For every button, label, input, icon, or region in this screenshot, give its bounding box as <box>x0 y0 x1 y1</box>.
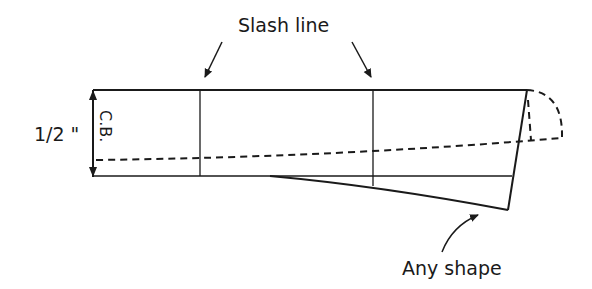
slash-line-label: Slash line <box>238 14 329 36</box>
dimension-arrow <box>89 90 97 177</box>
dashed-fold-line <box>96 90 562 160</box>
pattern-diagram: Slash line Any shape 1/2 " C.B. <box>0 0 592 289</box>
slash-arrows <box>205 42 371 77</box>
curved-arrow-icon <box>442 215 478 252</box>
arrow-icon <box>205 42 222 77</box>
slash-lines <box>200 90 373 186</box>
half-inch-label: 1/2 " <box>34 123 79 145</box>
center-back-label: C.B. <box>96 110 115 142</box>
pattern-outline <box>93 90 527 210</box>
arrow-icon <box>352 42 371 77</box>
any-shape-label: Any shape <box>402 257 502 279</box>
